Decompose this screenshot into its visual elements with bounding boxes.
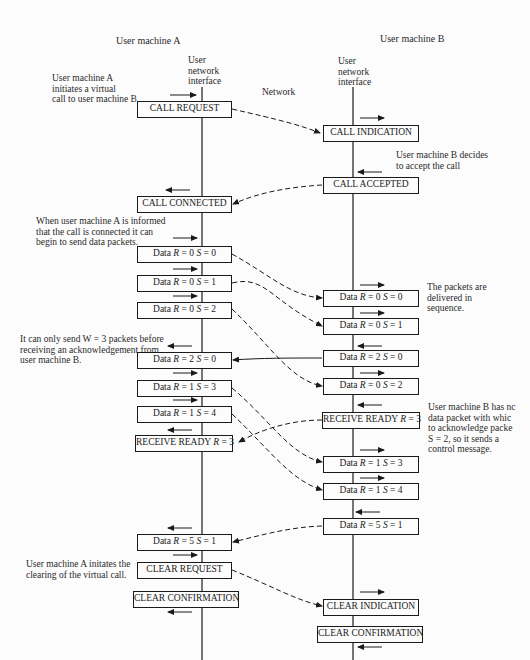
box-data-a-r1-s4: Data R = 1 S = 4 [137, 406, 232, 423]
link-call-accepted [233, 185, 322, 204]
box-clear-confirmation-a: CLEAR CONFIRMATION [133, 591, 239, 608]
link-data-s3 [232, 388, 322, 462]
link-data-s4 [232, 414, 322, 490]
box-data-a-r1-s3: Data R = 1 S = 3 [137, 380, 232, 397]
header-interface-b: User network interface [338, 56, 371, 88]
box-data-a-r0-s1: Data R = 0 S = 1 [137, 275, 232, 292]
box-call-indication: CALL INDICATION [323, 125, 419, 142]
box-data-a-r0-s2: Data R = 0 S = 2 [137, 302, 232, 319]
header-machine-b: User machine B [380, 34, 444, 45]
link-data-s1 [232, 281, 322, 326]
link-receive-ready [239, 420, 322, 442]
box-data-b-r0-s0: Data R = 0 S = 0 [323, 290, 419, 307]
box-call-accepted: CALL ACCEPTED [323, 177, 419, 194]
header-network: Network [262, 87, 295, 98]
box-data-b-r1-s3: Data R = 1 S = 3 [323, 456, 419, 473]
box-receive-ready-a: RECEIVE READY R = 3 [135, 435, 233, 452]
box-call-request: CALL REQUEST [137, 101, 232, 118]
link-data-b-r2s0 [233, 358, 322, 360]
link-clear-request [232, 570, 322, 606]
annotation-b-no-data: User machine B has nc data packet with w… [428, 402, 516, 455]
header-interface-a: User network interface [188, 55, 221, 87]
annotation-b-decides: User machine B decides to accept the cal… [396, 150, 488, 171]
link-data-s0 [232, 254, 322, 298]
link-call-request [232, 109, 320, 133]
annotation-a-clearing: User machine A initates the clearing of … [26, 559, 130, 580]
box-data-b-r2-s0: Data R = 2 S = 0 [323, 350, 419, 367]
box-clear-request: CLEAR REQUEST [137, 562, 232, 579]
box-data-a-r5-s1: Data R = 5 S = 1 [137, 534, 232, 551]
box-data-b-r5-s1: Data R = 5 S = 1 [323, 518, 419, 535]
box-data-b-r0-s1: Data R = 0 S = 1 [323, 318, 419, 335]
link-data-s2 [232, 309, 322, 386]
annotation-a-informed: When user machine A is informed that the… [36, 216, 166, 248]
box-clear-indication: CLEAR INDICATION [323, 599, 419, 616]
sequence-diagram: User machine A User machine B User netwo… [0, 0, 530, 660]
box-clear-confirmation-b: CLEAR CONFIRMATION [317, 626, 423, 643]
box-data-b-r0-s2: Data R = 0 S = 2 [323, 378, 419, 395]
annotation-a-initiates: User machine A initiates a virtual call … [52, 73, 137, 105]
box-data-a-r2-s0: Data R = 2 S = 0 [137, 352, 232, 369]
box-data-b-r1-s4: Data R = 1 S = 4 [323, 483, 419, 500]
link-data-b-s1 [233, 526, 322, 542]
box-call-connected: CALL CONNECTED [137, 196, 232, 213]
box-data-a-r0-s0: Data R = 0 S = 0 [137, 246, 232, 263]
box-receive-ready-b: RECEIVE READY R = 3 [322, 412, 420, 429]
header-machine-a: User machine A [116, 36, 180, 47]
annotation-in-sequence: The packets are delivered in sequence. [427, 282, 487, 314]
